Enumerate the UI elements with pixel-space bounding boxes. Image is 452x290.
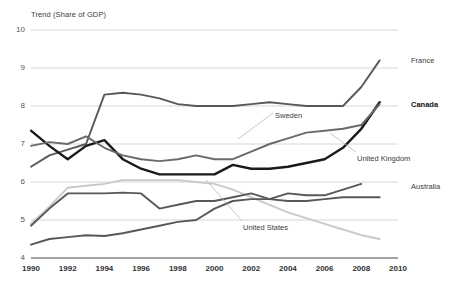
x-tick-label: 2000 <box>195 264 235 273</box>
x-tick-label: 1990 <box>11 264 51 273</box>
series-label-canada: Canada <box>411 100 438 109</box>
series-line-france <box>31 60 380 166</box>
x-tick-label: 2002 <box>231 264 271 273</box>
x-tick-label: 2008 <box>341 264 381 273</box>
x-tick-label: 1996 <box>121 264 161 273</box>
series-lines <box>31 60 380 244</box>
series-line-united-kingdom <box>31 104 380 161</box>
callout-label-united-states: United States <box>243 223 288 232</box>
x-tick-label: 2004 <box>268 264 308 273</box>
x-tick-label: 2006 <box>305 264 345 273</box>
chart-canvas <box>0 0 452 290</box>
x-tick-label: 2010 <box>378 264 418 273</box>
y-tick-label: 5 <box>9 215 25 224</box>
callout-label-sweden: Sweden <box>275 111 302 120</box>
y-tick-label: 4 <box>9 253 25 262</box>
y-tick-label: 6 <box>9 177 25 186</box>
x-tick-label: 1994 <box>84 264 124 273</box>
y-tick-label: 10 <box>9 25 25 34</box>
series-line-united-states <box>31 197 380 245</box>
series-line-sweden <box>31 180 380 239</box>
y-tick-label: 7 <box>9 139 25 148</box>
y-tick-label: 9 <box>9 63 25 72</box>
x-tick-label: 1992 <box>48 264 88 273</box>
callout-label-united-kingdom: United Kingdom <box>357 154 410 163</box>
series-label-france: France <box>411 56 434 65</box>
y-tick-label: 8 <box>9 101 25 110</box>
leader-line <box>238 113 273 139</box>
series-label-australia: Australia <box>411 182 440 191</box>
x-tick-label: 1998 <box>158 264 198 273</box>
line-chart: Trend (Share of GDP) 45678910 1990199219… <box>0 0 452 290</box>
